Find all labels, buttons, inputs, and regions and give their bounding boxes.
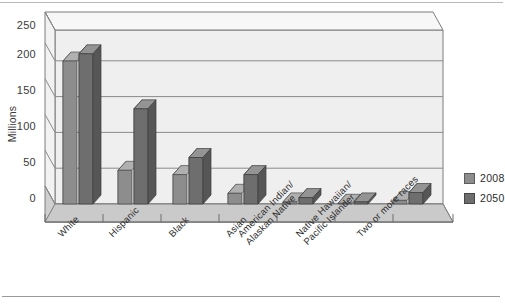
bar-asian-2050: [244, 166, 266, 204]
legend-label-2050: 2050: [480, 192, 505, 204]
bar-hispanic-2050: [134, 100, 156, 204]
legend-item-2008[interactable]: 2008: [464, 172, 505, 184]
y-axis-title: Millions: [6, 94, 18, 154]
y-tick-50: 50: [10, 156, 36, 168]
chart-top-face: [45, 12, 443, 30]
y-tick-200: 200: [10, 48, 36, 60]
chart-legend: 2008 2050: [464, 172, 505, 212]
y-tick-0: 0: [10, 192, 36, 204]
legend-item-2050[interactable]: 2050: [464, 192, 505, 204]
legend-swatch-2050: [464, 193, 475, 204]
chart-left-wall: [45, 12, 55, 204]
y-tick-250: 250: [10, 19, 36, 31]
legend-label-2008: 2008: [480, 172, 505, 184]
legend-swatch-2008: [464, 173, 475, 184]
bar-white-2050: [79, 45, 101, 204]
bar-black-2050: [189, 149, 211, 205]
